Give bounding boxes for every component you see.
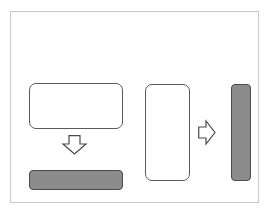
tall-outline-rect	[145, 84, 190, 181]
down-arrow-icon	[62, 135, 87, 155]
right-arrow-icon	[198, 120, 216, 145]
tall-filled-bar	[231, 84, 251, 181]
wide-outline-rect	[29, 83, 123, 129]
wide-filled-bar	[29, 170, 123, 190]
